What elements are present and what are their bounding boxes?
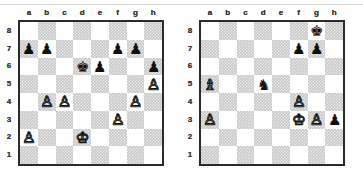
square-c3[interactable] bbox=[56, 111, 74, 129]
square-f5[interactable] bbox=[290, 75, 308, 93]
square-g4[interactable] bbox=[308, 93, 326, 111]
square-c2[interactable] bbox=[56, 129, 74, 147]
square-e3[interactable] bbox=[272, 111, 290, 129]
square-a7[interactable] bbox=[20, 40, 38, 58]
square-d3[interactable] bbox=[254, 111, 272, 129]
square-c5[interactable] bbox=[56, 75, 74, 93]
square-h4[interactable] bbox=[325, 93, 343, 111]
square-b7[interactable] bbox=[219, 40, 237, 58]
square-h7[interactable] bbox=[144, 40, 162, 58]
square-h6[interactable] bbox=[325, 58, 343, 76]
square-f4[interactable] bbox=[290, 93, 308, 111]
square-d7[interactable] bbox=[73, 40, 91, 58]
square-h5[interactable] bbox=[144, 75, 162, 93]
square-a2[interactable] bbox=[20, 129, 38, 147]
square-g7[interactable] bbox=[127, 40, 145, 58]
square-f1[interactable] bbox=[290, 146, 308, 164]
square-g3[interactable] bbox=[308, 111, 326, 129]
square-h2[interactable] bbox=[325, 129, 343, 147]
square-a1[interactable] bbox=[20, 146, 38, 164]
square-d4[interactable] bbox=[73, 93, 91, 111]
square-a6[interactable] bbox=[201, 58, 219, 76]
square-a8[interactable] bbox=[20, 22, 38, 40]
square-g7[interactable] bbox=[308, 40, 326, 58]
square-f2[interactable] bbox=[109, 129, 127, 147]
square-b1[interactable] bbox=[38, 146, 56, 164]
square-b8[interactable] bbox=[219, 22, 237, 40]
square-a1[interactable] bbox=[201, 146, 219, 164]
square-c1[interactable] bbox=[56, 146, 74, 164]
square-e3[interactable] bbox=[91, 111, 109, 129]
square-f8[interactable] bbox=[290, 22, 308, 40]
square-h1[interactable] bbox=[325, 146, 343, 164]
square-d1[interactable] bbox=[254, 146, 272, 164]
square-e5[interactable] bbox=[91, 75, 109, 93]
square-b5[interactable] bbox=[219, 75, 237, 93]
square-a5[interactable] bbox=[20, 75, 38, 93]
square-f7[interactable] bbox=[109, 40, 127, 58]
square-g8[interactable] bbox=[127, 22, 145, 40]
square-d6[interactable] bbox=[73, 58, 91, 76]
square-c4[interactable] bbox=[56, 93, 74, 111]
square-g6[interactable] bbox=[127, 58, 145, 76]
square-c3[interactable] bbox=[237, 111, 255, 129]
square-g2[interactable] bbox=[127, 129, 145, 147]
square-e8[interactable] bbox=[91, 22, 109, 40]
square-g1[interactable] bbox=[127, 146, 145, 164]
square-g2[interactable] bbox=[308, 129, 326, 147]
square-h1[interactable] bbox=[144, 146, 162, 164]
square-a2[interactable] bbox=[201, 129, 219, 147]
square-b4[interactable] bbox=[219, 93, 237, 111]
square-d3[interactable] bbox=[73, 111, 91, 129]
square-c8[interactable] bbox=[56, 22, 74, 40]
square-e4[interactable] bbox=[91, 93, 109, 111]
square-f6[interactable] bbox=[109, 58, 127, 76]
square-f1[interactable] bbox=[109, 146, 127, 164]
square-a3[interactable] bbox=[20, 111, 38, 129]
square-h2[interactable] bbox=[144, 129, 162, 147]
square-h4[interactable] bbox=[144, 93, 162, 111]
square-e2[interactable] bbox=[272, 129, 290, 147]
square-d2[interactable] bbox=[73, 129, 91, 147]
square-g5[interactable] bbox=[308, 75, 326, 93]
square-d6[interactable] bbox=[254, 58, 272, 76]
square-f7[interactable] bbox=[290, 40, 308, 58]
square-e4[interactable] bbox=[272, 93, 290, 111]
square-c7[interactable] bbox=[56, 40, 74, 58]
square-g3[interactable] bbox=[127, 111, 145, 129]
square-b7[interactable] bbox=[38, 40, 56, 58]
square-e6[interactable] bbox=[272, 58, 290, 76]
square-e1[interactable] bbox=[91, 146, 109, 164]
square-g6[interactable] bbox=[308, 58, 326, 76]
square-h8[interactable] bbox=[144, 22, 162, 40]
square-c8[interactable] bbox=[237, 22, 255, 40]
square-f3[interactable] bbox=[109, 111, 127, 129]
square-e6[interactable] bbox=[91, 58, 109, 76]
square-h7[interactable] bbox=[325, 40, 343, 58]
square-d7[interactable] bbox=[254, 40, 272, 58]
square-a8[interactable] bbox=[201, 22, 219, 40]
square-b2[interactable] bbox=[38, 129, 56, 147]
square-f3[interactable] bbox=[290, 111, 308, 129]
square-a7[interactable] bbox=[201, 40, 219, 58]
square-d1[interactable] bbox=[73, 146, 91, 164]
square-c5[interactable] bbox=[237, 75, 255, 93]
square-d4[interactable] bbox=[254, 93, 272, 111]
square-e7[interactable] bbox=[91, 40, 109, 58]
square-e7[interactable] bbox=[272, 40, 290, 58]
board-grid-right[interactable]: ♚♟♟♗♞♙♙♔♙♟ bbox=[201, 22, 343, 164]
square-b6[interactable] bbox=[219, 58, 237, 76]
square-c6[interactable] bbox=[237, 58, 255, 76]
square-g8[interactable] bbox=[308, 22, 326, 40]
square-f5[interactable] bbox=[109, 75, 127, 93]
square-b4[interactable] bbox=[38, 93, 56, 111]
square-a3[interactable] bbox=[201, 111, 219, 129]
square-e8[interactable] bbox=[272, 22, 290, 40]
square-f8[interactable] bbox=[109, 22, 127, 40]
square-d8[interactable] bbox=[73, 22, 91, 40]
square-a5[interactable] bbox=[201, 75, 219, 93]
square-e1[interactable] bbox=[272, 146, 290, 164]
square-h5[interactable] bbox=[325, 75, 343, 93]
square-h8[interactable] bbox=[325, 22, 343, 40]
square-b1[interactable] bbox=[219, 146, 237, 164]
